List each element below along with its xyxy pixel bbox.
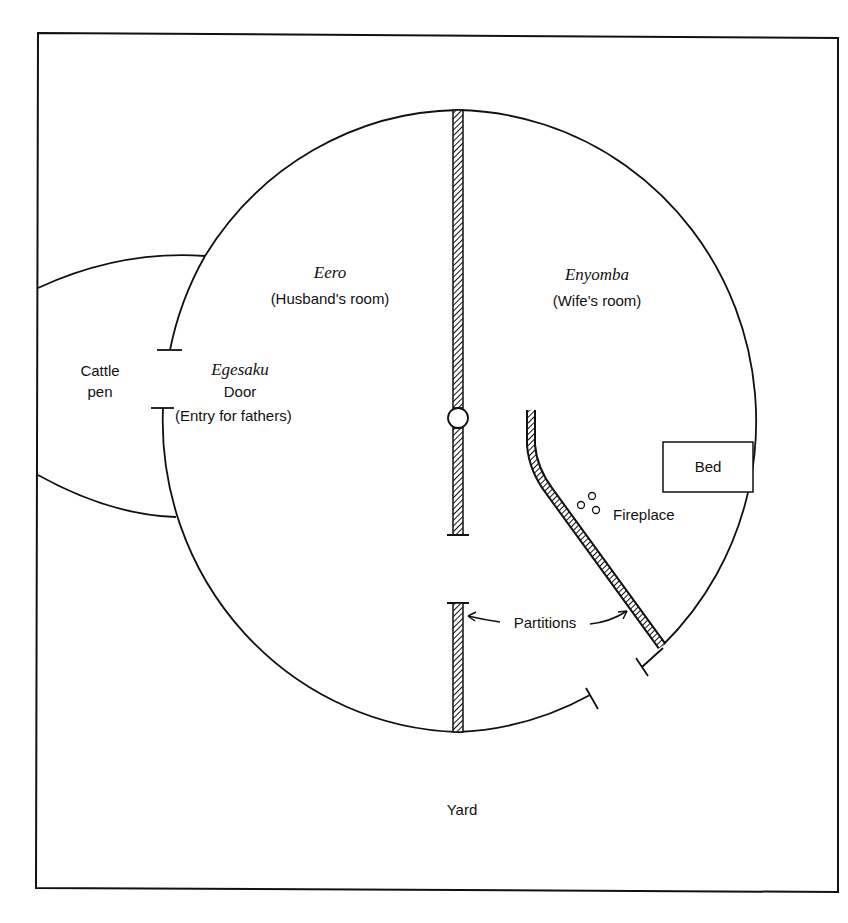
husband-room-description: (Husband's room): [271, 289, 390, 309]
central-partition-upper: [453, 110, 463, 408]
lower-partition: [453, 603, 463, 732]
hut-wall-west-lower: [163, 408, 590, 732]
husband-room-name: Eero: [314, 263, 346, 283]
yard-label: Yard: [447, 800, 478, 820]
fireplace-label: Fireplace: [613, 505, 675, 525]
partitions-arrow-right: [590, 611, 627, 624]
door-name: Egesaku: [211, 360, 269, 380]
door-description: (Entry for fathers): [175, 406, 292, 426]
fireplace-stone: [578, 502, 585, 509]
fireplace-partition: [531, 410, 662, 646]
wife-room-name: Enyomba: [565, 265, 629, 285]
cattle-pen-label-line2: pen: [87, 382, 112, 402]
fireplace-stone: [589, 493, 596, 500]
hut-floor-plan: Eero (Husband's room) Enyomba (Wife's ro…: [0, 0, 848, 923]
wife-room-description: (Wife's room): [553, 291, 642, 311]
center-post: [448, 408, 468, 428]
cattle-pen-upper-wall: [38, 255, 205, 288]
door-label: Door: [224, 382, 257, 402]
hut-wall-right: [205, 110, 756, 645]
cattle-pen-lower-wall: [38, 475, 176, 517]
hut-wall-west-upper: [170, 256, 205, 350]
bed-label: Bed: [695, 457, 722, 477]
fireplace-stone: [593, 507, 600, 514]
south-door-jamb-link: [642, 648, 663, 667]
partitions-label: Partitions: [514, 613, 577, 633]
central-partition-middle: [453, 428, 463, 535]
cattle-pen-label-line1: Cattle: [80, 361, 119, 381]
south-door-jamb-left: [586, 688, 598, 709]
